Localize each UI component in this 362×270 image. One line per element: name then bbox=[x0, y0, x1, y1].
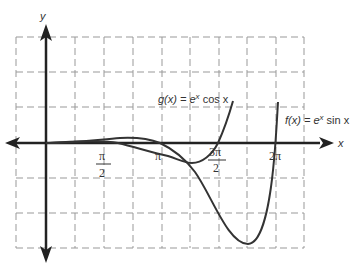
svg-text:2: 2 bbox=[99, 166, 105, 180]
x-axis-right-arrow-icon bbox=[319, 137, 334, 149]
g-label: g(x) = ex cos x bbox=[158, 92, 229, 105]
tick-two-pi: 2π bbox=[269, 149, 281, 163]
svg-text:3π: 3π bbox=[209, 145, 221, 159]
tick-three-pi-half: 3π 2 bbox=[208, 145, 226, 175]
g-curve bbox=[46, 101, 233, 163]
tick-pi: π bbox=[155, 149, 161, 163]
f-label: f(x) = ex sin x bbox=[285, 113, 350, 126]
chart: y x π 2 π 3π 2 2π g(x) = ex cos x f(x) =… bbox=[0, 0, 362, 270]
x-axis-label: x bbox=[337, 137, 344, 149]
svg-text:π: π bbox=[99, 149, 105, 163]
y-axis-label: y bbox=[39, 10, 47, 22]
tick-pi-half: π 2 bbox=[96, 149, 111, 180]
svg-text:2: 2 bbox=[213, 161, 219, 175]
